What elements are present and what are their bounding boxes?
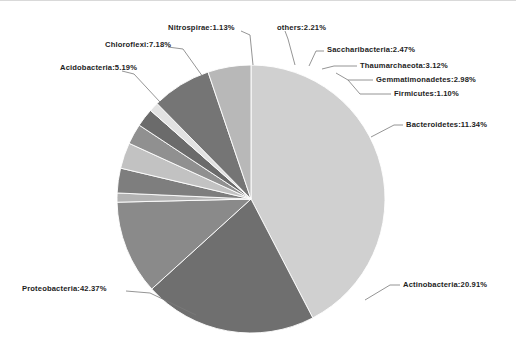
pie-label-acidobacteria: Acidobacteria:5.19% (60, 63, 137, 73)
pie-label-saccharibacteria: Saccharibacteria:2.47% (327, 45, 415, 55)
pie-chart-canvas (0, 1, 516, 357)
leader-line-nitrospirae (241, 31, 253, 65)
pie-label-chloroflexi: Chloroflexi:7.18% (105, 40, 171, 50)
pie-label-bacteroidetes: Bacteroidetes:11.34% (406, 120, 487, 130)
pie-label-gemmatimonadetes: Gemmatimonadetes:2.98% (376, 75, 476, 85)
leader-line-bacteroidetes (371, 125, 403, 137)
pie-label-actinobacteria: Actinobacteria:20.91% (403, 280, 487, 290)
leader-line-acidobacteria (122, 71, 160, 102)
leader-line-actinobacteria (365, 285, 400, 300)
pie-label-others: others:2.21% (277, 23, 326, 33)
pie-label-nitrospirae: Nitrospirae:1.13% (168, 23, 235, 33)
leader-line-saccharibacteria (309, 51, 324, 66)
pie-slice-group (117, 65, 385, 333)
pie-label-firmicutes: Firmicutes:1.10% (394, 89, 459, 99)
pie-label-thaumarchaeota: Thaumarchaeota:3.12% (360, 61, 448, 71)
leader-line-others (285, 31, 295, 65)
leader-line-chloroflexi (168, 47, 203, 77)
leader-line-gemmatimonadetes (336, 73, 373, 80)
leader-line-thaumarchaeota (322, 66, 357, 69)
pie-label-proteobacteria: Proteobacteria:42.37% (22, 284, 107, 294)
pie-chart-figure: Proteobacteria:42.37%Actinobacteria:20.9… (0, 0, 516, 357)
